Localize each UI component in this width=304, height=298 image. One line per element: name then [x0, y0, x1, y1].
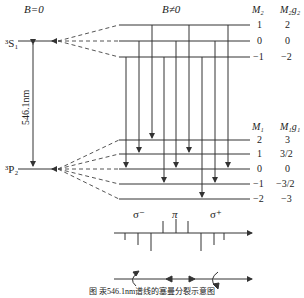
lower-mg-2: 3/2	[280, 148, 293, 159]
upper-m-1: 1	[257, 19, 262, 30]
lower-m-4: −1	[253, 178, 264, 189]
lower-splitting-fan	[58, 140, 119, 199]
upper-mg-3: −2	[281, 51, 292, 62]
lower-m-1: 2	[257, 134, 262, 145]
lower-mg-4: −3/2	[276, 178, 294, 189]
header-m1: M₁	[251, 121, 264, 132]
spectrum-lines	[114, 219, 252, 251]
upper-mg-1: 2	[285, 19, 290, 30]
lower-mg-3: 0	[285, 163, 290, 174]
upper-splitting-fan	[58, 25, 119, 57]
lower-mg-1: 3	[285, 134, 290, 145]
label-3s1: ³S₁	[5, 37, 18, 49]
label-sigma-minus: σ⁻	[133, 208, 145, 220]
upper-mg-2: 0	[285, 35, 290, 46]
header-m2g2: M₂g₂	[279, 4, 301, 15]
upper-m-3: −1	[253, 51, 264, 62]
label-3p2: ³P₂	[5, 163, 18, 175]
upper-m-2: 0	[257, 35, 262, 46]
lower-m-2: 1	[257, 148, 262, 159]
title-b-zero: B=0	[24, 3, 44, 15]
lower-m-3: 0	[257, 163, 262, 174]
zeeman-diagram: B=0 B≠0 M₂ M₂g₂ ³S₁ 1 2 0 0 −1 −2 546.1n…	[0, 0, 304, 298]
transition-arrows	[126, 25, 228, 197]
lower-m-5: −2	[253, 193, 264, 204]
label-sigma-plus: σ⁺	[210, 208, 222, 220]
header-m2: M₂	[251, 4, 264, 15]
lower-mg-5: −3	[281, 193, 292, 204]
title-b-nonzero: B≠0	[162, 3, 181, 15]
figure-caption: 图 汞546.1nm谱线的塞曼分裂示意图	[89, 286, 215, 296]
wavelength-label: 546.1nm	[20, 90, 31, 126]
label-pi: π	[172, 208, 178, 220]
header-m1g1: M₁g₁	[279, 121, 300, 132]
